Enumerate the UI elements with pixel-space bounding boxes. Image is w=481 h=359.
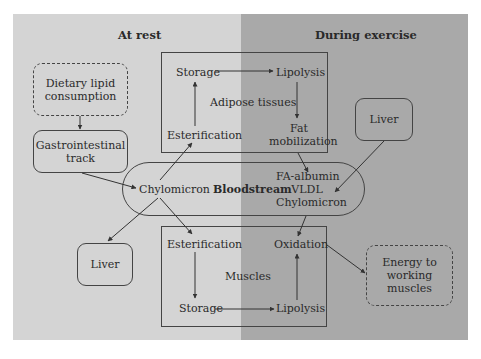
arrow-chylomicron-to-adipose — [160, 143, 192, 180]
arrow-gi-to-chylomicron — [82, 173, 136, 188]
arrow-fat-mobilization-to-fa-albumin — [298, 153, 308, 172]
arrow-liver-to-vldl — [335, 141, 384, 192]
arrow-chylomicron-to-oxidation — [298, 216, 306, 236]
arrow-oxidation-to-energy — [327, 245, 365, 273]
arrow-chylomicron-to-liver — [108, 198, 158, 241]
flow-arrows — [0, 0, 481, 359]
arrow-chylomicron-to-muscle-esterification — [160, 198, 192, 234]
